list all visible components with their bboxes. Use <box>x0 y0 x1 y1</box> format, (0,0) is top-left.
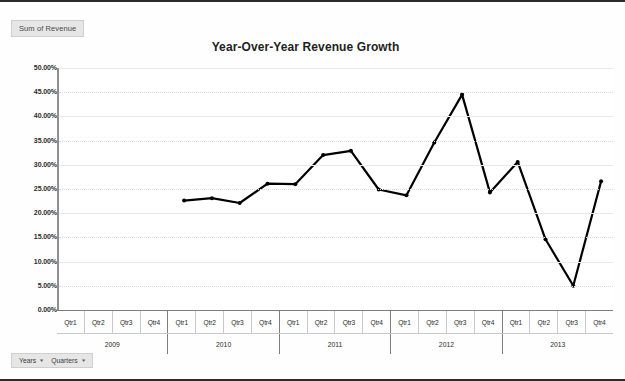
gridline <box>59 262 613 263</box>
y-axis-tick-label: 10.00% <box>11 258 57 265</box>
x-axis-quarter-cell: Qtr1 <box>391 311 419 333</box>
gridline <box>59 92 613 94</box>
data-point-marker <box>405 193 409 197</box>
data-point-marker <box>182 199 186 203</box>
data-point-marker <box>293 182 297 186</box>
data-point-marker <box>599 179 603 183</box>
data-point-marker <box>321 153 325 157</box>
y-axis-tick-label: 0.00% <box>11 306 57 313</box>
x-axis-year-cell: 2009 <box>57 334 168 354</box>
gridline <box>59 68 613 69</box>
y-axis-tick-label: 20.00% <box>11 209 57 216</box>
quarters-dropdown-label: Quarters <box>51 355 77 366</box>
x-axis-year-cell: 2013 <box>503 334 613 354</box>
x-axis-quarter-cell: Qtr1 <box>168 311 196 333</box>
x-axis-year-cell: 2011 <box>280 334 391 354</box>
y-axis-tick-label: 30.00% <box>11 161 57 168</box>
x-axis-quarter-cell: Qtr2 <box>419 311 447 333</box>
x-axis-quarter-cell: Qtr3 <box>447 311 475 333</box>
chevron-down-icon: ▾ <box>40 355 44 366</box>
x-axis-quarter-cell: Qtr3 <box>113 311 141 333</box>
x-axis-quarter-cell: Qtr1 <box>57 311 85 333</box>
x-axis-quarter-cell: Qtr4 <box>141 311 169 333</box>
gridline <box>59 141 613 143</box>
x-axis: Qtr1Qtr2Qtr3Qtr4Qtr1Qtr2Qtr3Qtr4Qtr1Qtr2… <box>57 310 613 355</box>
years-dropdown-button[interactable]: Years ▾ <box>15 355 47 366</box>
chevron-down-icon: ▾ <box>81 355 85 366</box>
x-axis-quarter-cell: Qtr3 <box>335 311 363 333</box>
x-axis-year-cell: 2010 <box>168 334 279 354</box>
y-axis-tick-label: 15.00% <box>11 233 57 240</box>
x-axis-quarter-cell: Qtr3 <box>224 311 252 333</box>
y-axis-tick-label: 25.00% <box>11 185 57 192</box>
quarters-dropdown-button[interactable]: Quarters ▾ <box>47 355 88 366</box>
plot-area <box>57 68 613 310</box>
data-point-marker <box>266 182 270 186</box>
data-point-marker <box>210 196 214 200</box>
chart-window: Sum of Revenue Year-Over-Year Revenue Gr… <box>0 0 625 381</box>
years-dropdown-label: Years <box>19 355 36 366</box>
y-axis-tick-label: 50.00% <box>11 64 57 71</box>
gridline <box>59 116 613 117</box>
x-axis-quarter-cell: Qtr4 <box>252 311 280 333</box>
x-axis-quarter-cell: Qtr4 <box>363 311 391 333</box>
data-point-marker <box>349 149 353 153</box>
y-axis-tick-label: 5.00% <box>11 282 57 289</box>
y-axis-tick-label: 40.00% <box>11 112 57 119</box>
x-axis-year-row: 20092010201120122013 <box>57 333 613 354</box>
gridline <box>59 189 613 191</box>
filter-button-bar: Years ▾ Quarters ▾ <box>11 353 93 368</box>
x-axis-quarter-cell: Qtr4 <box>586 311 613 333</box>
gridline <box>59 237 613 239</box>
field-button-label: Sum of Revenue <box>19 24 76 33</box>
x-axis-quarter-cell: Qtr2 <box>308 311 336 333</box>
x-axis-quarter-row: Qtr1Qtr2Qtr3Qtr4Qtr1Qtr2Qtr3Qtr4Qtr1Qtr2… <box>57 311 613 333</box>
y-axis-tick-label: 45.00% <box>11 88 57 95</box>
gridline <box>59 213 613 214</box>
x-axis-quarter-cell: Qtr1 <box>280 311 308 333</box>
x-axis-quarter-cell: Qtr2 <box>85 311 113 333</box>
y-axis-tick-label: 35.00% <box>11 137 57 144</box>
x-axis-year-cell: 2012 <box>391 334 502 354</box>
field-button-sum-of-revenue[interactable]: Sum of Revenue <box>11 20 84 37</box>
data-point-marker <box>516 160 520 164</box>
x-axis-quarter-cell: Qtr2 <box>530 311 558 333</box>
x-axis-quarter-cell: Qtr3 <box>558 311 586 333</box>
gridline <box>59 286 613 288</box>
x-axis-quarter-cell: Qtr1 <box>503 311 531 333</box>
data-point-marker <box>488 190 492 194</box>
gridline <box>59 165 613 166</box>
data-point-marker <box>238 201 242 205</box>
x-axis-quarter-cell: Qtr4 <box>475 311 503 333</box>
x-axis-quarter-cell: Qtr2 <box>196 311 224 333</box>
chart-title: Year-Over-Year Revenue Growth <box>0 40 625 54</box>
y-axis: 50.00%45.00%40.00%35.00%30.00%25.00%20.0… <box>11 68 57 310</box>
